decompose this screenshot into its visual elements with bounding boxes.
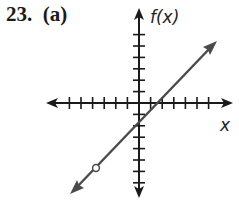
x-axis-label: x (219, 115, 231, 135)
open-point-icon (93, 165, 100, 172)
y-axis-label: f(x) (150, 7, 179, 27)
graph: f(x) x (0, 0, 239, 200)
